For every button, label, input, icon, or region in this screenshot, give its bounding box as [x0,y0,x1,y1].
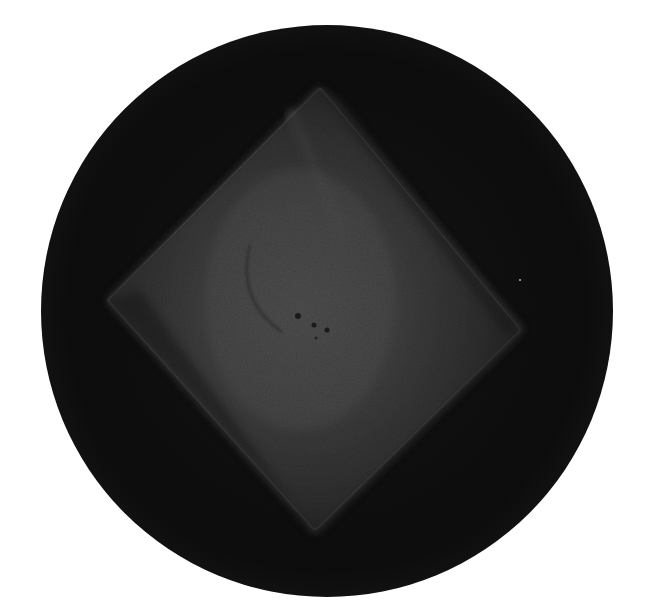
micrograph-image [0,0,655,616]
micrograph-svg [0,0,655,616]
inclusion-dot [315,337,318,340]
inclusion-dot [325,328,330,333]
inclusion-dot [295,313,301,319]
bright-speck [519,279,521,281]
inclusion-dot [312,323,317,328]
